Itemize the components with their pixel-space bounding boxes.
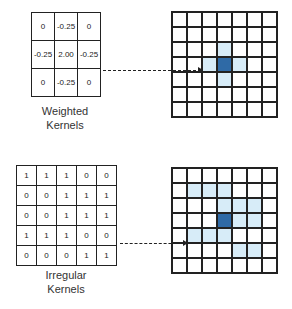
- output-cell: [232, 102, 247, 117]
- kernel-cell: 0: [37, 246, 57, 266]
- output-cell: [202, 198, 217, 213]
- output-cell: [217, 198, 232, 213]
- output-cell: [202, 87, 217, 102]
- kernel-cell: 0: [37, 186, 57, 206]
- kernel-cell: 1: [97, 186, 117, 206]
- output-cell: [202, 27, 217, 42]
- output-cell: [217, 102, 232, 117]
- output-cell: [262, 27, 277, 42]
- irregular-kernel-table: 1110000111001111110000011: [16, 165, 117, 266]
- output-cell: [232, 228, 247, 243]
- output-cell: [217, 87, 232, 102]
- kernel-cell: 1: [57, 206, 77, 226]
- kernel-cell: 1: [57, 166, 77, 186]
- output-cell: [187, 12, 202, 27]
- kernel-cell: 0: [57, 246, 77, 266]
- kernel-cell: 1: [17, 166, 37, 186]
- output-cell: [187, 72, 202, 87]
- kernel-cell: 1: [77, 206, 97, 226]
- kernel-cell: 0: [77, 226, 97, 246]
- output-cell: [187, 243, 202, 258]
- label-line1: Irregular: [16, 268, 116, 282]
- output-cell: [247, 12, 262, 27]
- output-cell: [202, 57, 217, 72]
- irregular-output-grid: [171, 167, 278, 274]
- output-cell: [232, 27, 247, 42]
- output-cell: [262, 87, 277, 102]
- kernel-cell: 0: [17, 246, 37, 266]
- kernel-cell: 0: [77, 166, 97, 186]
- output-cell: [187, 228, 202, 243]
- kernel-cell: 1: [37, 166, 57, 186]
- output-cell: [187, 258, 202, 273]
- output-cell: [187, 42, 202, 57]
- output-cell: [172, 72, 187, 87]
- output-cell: [262, 213, 277, 228]
- output-cell: [247, 213, 262, 228]
- output-cell: [247, 57, 262, 72]
- output-cell: [217, 42, 232, 57]
- output-cell: [187, 57, 202, 72]
- kernel-cell: 1: [97, 246, 117, 266]
- output-cell: [172, 258, 187, 273]
- label-line2: Kernels: [31, 118, 99, 132]
- kernel-cell: -0.25: [32, 41, 55, 69]
- output-cell: [247, 183, 262, 198]
- kernel-cell: 0: [17, 186, 37, 206]
- output-cell: [202, 72, 217, 87]
- output-cell: [172, 213, 187, 228]
- output-cell: [172, 57, 187, 72]
- kernel-cell: 0: [17, 206, 37, 226]
- kernel-cell: -0.25: [55, 13, 78, 41]
- output-cell: [232, 243, 247, 258]
- output-cell: [172, 168, 187, 183]
- output-cell: [202, 243, 217, 258]
- output-cell: [217, 12, 232, 27]
- output-cell: [217, 72, 232, 87]
- output-cell: [172, 198, 187, 213]
- output-cell: [232, 198, 247, 213]
- kernel-cell: 1: [57, 186, 77, 206]
- output-cell: [232, 42, 247, 57]
- output-cell: [202, 42, 217, 57]
- output-cell: [262, 72, 277, 87]
- output-cell: [232, 57, 247, 72]
- kernel-cell: 0: [32, 13, 55, 41]
- output-cell: [187, 87, 202, 102]
- kernel-cell: 1: [97, 206, 117, 226]
- output-cell: [187, 183, 202, 198]
- output-cell: [217, 57, 232, 72]
- output-cell: [247, 72, 262, 87]
- output-cell: [217, 228, 232, 243]
- output-cell: [247, 102, 262, 117]
- output-cell: [262, 198, 277, 213]
- output-cell: [187, 102, 202, 117]
- output-cell: [172, 27, 187, 42]
- weighted-kernel-table: 0-0.250-0.252.00-0.250-0.250: [31, 12, 101, 97]
- output-cell: [172, 228, 187, 243]
- output-cell: [217, 27, 232, 42]
- output-cell: [247, 87, 262, 102]
- output-cell: [232, 87, 247, 102]
- output-cell: [202, 12, 217, 27]
- output-cell: [202, 258, 217, 273]
- output-cell: [172, 183, 187, 198]
- output-cell: [262, 102, 277, 117]
- irregular-kernels-label: Irregular Kernels: [16, 268, 116, 296]
- output-cell: [217, 183, 232, 198]
- output-cell: [247, 168, 262, 183]
- output-cell: [247, 42, 262, 57]
- output-cell: [187, 213, 202, 228]
- kernel-cell: 0: [32, 69, 55, 97]
- output-cell: [202, 183, 217, 198]
- output-cell: [247, 243, 262, 258]
- kernel-cell: 1: [77, 186, 97, 206]
- output-cell: [187, 27, 202, 42]
- kernel-cell: 1: [57, 226, 77, 246]
- output-cell: [262, 228, 277, 243]
- kernel-cell: 0: [97, 226, 117, 246]
- output-cell: [202, 168, 217, 183]
- diagram: 0-0.250-0.252.00-0.250-0.250 Weighted Ke…: [0, 0, 292, 309]
- output-cell: [217, 213, 232, 228]
- kernel-cell: 1: [17, 226, 37, 246]
